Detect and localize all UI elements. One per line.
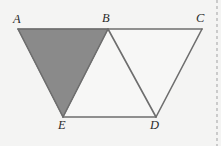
geometry-figure: A B C E D xyxy=(0,0,221,146)
vertex-label-b: B xyxy=(102,12,110,25)
vertex-label-a: A xyxy=(13,13,21,26)
vertex-label-e: E xyxy=(58,119,66,132)
vertex-label-c: C xyxy=(196,12,204,25)
geometry-canvas xyxy=(0,0,221,146)
vertex-label-d: D xyxy=(150,119,159,132)
